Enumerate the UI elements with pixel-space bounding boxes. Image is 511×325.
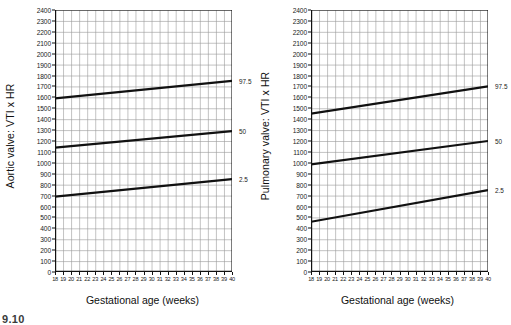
x-axis-tick-label: 39 bbox=[221, 276, 227, 282]
x-axis-tick-label: 39 bbox=[477, 276, 483, 282]
percentile-label-2.5: 2.5 bbox=[239, 176, 248, 183]
y-axis-tick-mark bbox=[52, 119, 55, 120]
x-axis-tick-mark bbox=[359, 272, 360, 275]
y-axis-tick-mark bbox=[308, 42, 311, 43]
y-axis-tick-mark bbox=[52, 184, 55, 185]
y-axis-tick-label: 0 bbox=[303, 269, 307, 276]
y-axis-tick-label: 0 bbox=[47, 269, 51, 276]
y-axis-tick-mark bbox=[308, 195, 311, 196]
y-axis-tick-mark bbox=[308, 86, 311, 87]
y-axis-tick-mark bbox=[308, 261, 311, 262]
x-axis-tick-label: 22 bbox=[340, 276, 346, 282]
y-axis-tick-mark bbox=[308, 75, 311, 76]
x-axis-tick-mark bbox=[79, 272, 80, 275]
x-axis-tick-label: 31 bbox=[413, 276, 419, 282]
x-axis-tick-label: 31 bbox=[157, 276, 163, 282]
x-axis-tick-label: 24 bbox=[356, 276, 362, 282]
y-axis-tick-label: 300 bbox=[296, 236, 307, 243]
y-axis-tick-label: 600 bbox=[296, 203, 307, 210]
x-axis-tick-mark bbox=[367, 272, 368, 275]
x-axis-tick-mark bbox=[127, 272, 128, 275]
y-axis-tick-label: 1300 bbox=[293, 127, 307, 134]
y-axis-tick-mark bbox=[52, 162, 55, 163]
y-axis-tick-mark bbox=[308, 53, 311, 54]
percentile-line-97.5 bbox=[311, 86, 488, 113]
x-axis-tick-label: 36 bbox=[197, 276, 203, 282]
y-axis-tick-label: 600 bbox=[40, 203, 51, 210]
x-axis-tick-label: 28 bbox=[133, 276, 139, 282]
x-axis-tick-mark bbox=[160, 272, 161, 275]
percentile-line-2.5 bbox=[311, 190, 488, 222]
x-axis-tick-mark bbox=[480, 272, 481, 275]
y-axis-tick-mark bbox=[308, 108, 311, 109]
y-axis-tick-label: 1500 bbox=[37, 105, 51, 112]
x-axis-tick-mark bbox=[464, 272, 465, 275]
x-axis-tick-mark bbox=[224, 272, 225, 275]
x-axis-tick-mark bbox=[375, 272, 376, 275]
y-axis-title-label: Aortic valve: VTI x HR bbox=[4, 84, 16, 189]
plot-area-aortic: 2400230022002100200019001800170016001500… bbox=[55, 10, 232, 272]
y-axis-tick-label: 1200 bbox=[37, 138, 51, 145]
x-axis-tick-mark bbox=[432, 272, 433, 275]
y-axis-tick-mark bbox=[308, 206, 311, 207]
y-axis-tick-mark bbox=[308, 10, 311, 11]
y-axis-tick-label: 1800 bbox=[37, 72, 51, 79]
y-axis-tick-mark bbox=[52, 141, 55, 142]
x-axis-tick-mark bbox=[400, 272, 401, 275]
x-axis-tick-label: 36 bbox=[453, 276, 459, 282]
y-axis-tick-mark bbox=[52, 42, 55, 43]
x-axis-tick-mark bbox=[335, 272, 336, 275]
x-axis-tick-label: 37 bbox=[205, 276, 211, 282]
chart-svg bbox=[55, 10, 232, 272]
x-axis-tick-label: 35 bbox=[189, 276, 195, 282]
y-axis-tick-mark bbox=[308, 31, 311, 32]
y-axis-tick-mark bbox=[52, 195, 55, 196]
x-axis-tick-label: 30 bbox=[149, 276, 155, 282]
x-axis-tick-mark bbox=[319, 272, 320, 275]
x-axis-tick-label: 18 bbox=[308, 276, 314, 282]
y-axis-tick-label: 1000 bbox=[37, 159, 51, 166]
x-axis-tick-mark bbox=[311, 272, 312, 275]
x-axis-tick-mark bbox=[103, 272, 104, 275]
y-axis-tick-label: 2200 bbox=[293, 28, 307, 35]
x-axis-tick-label: 33 bbox=[429, 276, 435, 282]
x-axis-tick-label: 22 bbox=[84, 276, 90, 282]
y-axis-tick-mark bbox=[308, 119, 311, 120]
y-axis-tick-mark bbox=[52, 10, 55, 11]
y-axis-title-label: Pulmonary valve: VTI x HR bbox=[259, 72, 271, 201]
x-axis-tick-mark bbox=[456, 272, 457, 275]
x-axis-tick-mark bbox=[111, 272, 112, 275]
x-axis-tick-mark bbox=[135, 272, 136, 275]
x-axis-tick-mark bbox=[351, 272, 352, 275]
y-axis-tick-mark bbox=[52, 86, 55, 87]
y-axis-tick-label: 1700 bbox=[37, 83, 51, 90]
percentile-line-2.5 bbox=[55, 179, 232, 196]
y-axis-tick-mark bbox=[308, 162, 311, 163]
y-axis-tick-mark bbox=[52, 53, 55, 54]
percentile-label-97.5: 97.5 bbox=[239, 77, 251, 84]
y-axis-tick-mark bbox=[52, 173, 55, 174]
panel-aortic: Aortic valve: VTI x HR 24002300220021002… bbox=[0, 0, 255, 320]
chart-svg bbox=[311, 10, 488, 272]
y-axis-tick-label: 1300 bbox=[37, 127, 51, 134]
y-axis-tick-mark bbox=[308, 184, 311, 185]
y-axis-title-pulmonary: Pulmonary valve: VTI x HR bbox=[257, 0, 273, 272]
x-axis-tick-label: 20 bbox=[68, 276, 74, 282]
x-axis-tick-mark bbox=[488, 272, 489, 275]
y-axis-tick-label: 2300 bbox=[293, 17, 307, 24]
x-axis-title-pulmonary: Gestational age (weeks) bbox=[285, 294, 510, 306]
x-axis-tick-label: 19 bbox=[316, 276, 322, 282]
x-axis-tick-label: 19 bbox=[60, 276, 66, 282]
y-axis-tick-label: 2400 bbox=[293, 7, 307, 14]
y-axis-tick-label: 1200 bbox=[293, 138, 307, 145]
x-axis-tick-label: 32 bbox=[165, 276, 171, 282]
x-axis-tick-mark bbox=[327, 272, 328, 275]
y-axis-tick-label: 800 bbox=[40, 181, 51, 188]
y-axis-tick-label: 800 bbox=[296, 181, 307, 188]
y-axis-tick-mark bbox=[52, 250, 55, 251]
y-axis-tick-label: 100 bbox=[296, 258, 307, 265]
y-axis-tick-label: 700 bbox=[40, 192, 51, 199]
y-axis-tick-mark bbox=[308, 250, 311, 251]
y-axis-tick-label: 400 bbox=[296, 225, 307, 232]
y-axis-tick-mark bbox=[52, 20, 55, 21]
